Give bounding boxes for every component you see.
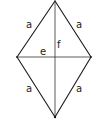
vertex-bottom (54, 116, 56, 118)
vertex-right (90, 56, 92, 58)
label-side-top-left: a (26, 19, 32, 30)
label-diagonal-f: f (57, 39, 61, 50)
side-top-left (17, 1, 55, 57)
label-diagonal-e: e (40, 46, 46, 57)
label-side-top-right: a (76, 19, 82, 30)
rhombus-diagram: a a a a e f (0, 0, 102, 124)
label-side-bottom-left: a (26, 83, 32, 94)
label-side-bottom-right: a (76, 83, 82, 94)
vertex-left (16, 56, 18, 58)
side-bottom-right (55, 57, 91, 117)
side-bottom-left (17, 57, 55, 117)
